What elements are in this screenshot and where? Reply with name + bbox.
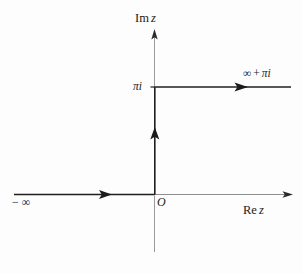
complex-plane-contour-figure: Imz Rez πi O − ∞ ∞+πi	[0, 0, 303, 274]
negative-infinity-label: − ∞	[12, 196, 30, 208]
real-axis-label-prefix: Re	[243, 203, 257, 217]
imaginary-axis-label-prefix: Im	[135, 11, 149, 25]
plus-sign: +	[251, 67, 262, 79]
contour-diagram-canvas	[0, 0, 303, 274]
origin-label: O	[157, 196, 166, 208]
real-axis-label-variable: z	[257, 203, 264, 217]
real-axis-label: Rez	[243, 204, 264, 217]
infinity-plus-pi-i-label: ∞+πi	[243, 68, 271, 80]
imaginary-axis-label: Imz	[135, 12, 156, 25]
pi-i-term: πi	[262, 67, 271, 79]
pi-i-tick-label: πi	[133, 81, 142, 93]
infinity-term: ∞	[243, 67, 251, 79]
imaginary-axis-label-variable: z	[149, 11, 156, 25]
